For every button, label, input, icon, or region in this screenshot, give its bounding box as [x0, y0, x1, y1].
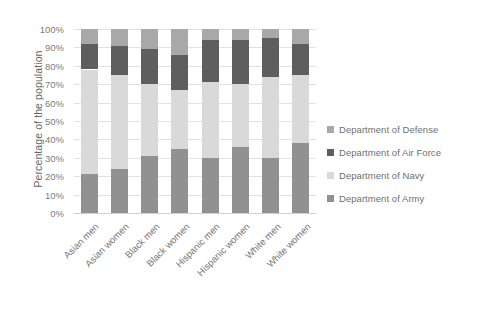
bar-segment[interactable]: [202, 29, 219, 40]
stacked-bar[interactable]: [262, 29, 279, 213]
bar-group[interactable]: [81, 29, 98, 213]
bar-segment[interactable]: [111, 29, 128, 46]
y-axis-tick-labels: 100%90%80%70%60%50%40%30%20%10%0%: [0, 29, 68, 213]
stacked-bar[interactable]: [81, 29, 98, 213]
legend-item[interactable]: Department of Navy: [327, 164, 483, 186]
bar-segment[interactable]: [141, 84, 158, 156]
legend-swatch-icon: [327, 172, 334, 179]
bar-segment[interactable]: [232, 84, 249, 147]
bar-group[interactable]: [111, 29, 128, 213]
bar-segment[interactable]: [141, 156, 158, 213]
bar-segment[interactable]: [111, 75, 128, 169]
bar-segment[interactable]: [202, 158, 219, 213]
stacked-bar[interactable]: [171, 29, 188, 213]
bar-group[interactable]: [202, 29, 219, 213]
bar-segment[interactable]: [171, 149, 188, 213]
bar-segment[interactable]: [232, 29, 249, 40]
legend-swatch-icon: [327, 149, 334, 156]
bar-group[interactable]: [171, 29, 188, 213]
stacked-bar[interactable]: [202, 29, 219, 213]
y-axis-tick-label: 0%: [0, 208, 64, 219]
stacked-bar[interactable]: [232, 29, 249, 213]
bar-segment[interactable]: [292, 75, 309, 143]
bar-segment[interactable]: [171, 55, 188, 90]
legend-swatch-icon: [327, 126, 334, 133]
bar-group[interactable]: [262, 29, 279, 213]
y-axis-tick-label: 50%: [0, 116, 64, 127]
bar-group[interactable]: [141, 29, 158, 213]
chart-legend: Department of DefenseDepartment of Air F…: [327, 118, 483, 210]
legend-item[interactable]: Department of Air Force: [327, 141, 483, 163]
bar-segment[interactable]: [141, 49, 158, 84]
y-axis-tick-label: 60%: [0, 97, 64, 108]
plot-area: [74, 29, 316, 213]
y-axis-tick-label: 30%: [0, 152, 64, 163]
legend-label: Department of Air Force: [339, 147, 441, 158]
bar-segment[interactable]: [81, 44, 98, 70]
stacked-bar-chart: Percentage of the population 100%90%80%7…: [0, 0, 485, 314]
y-axis-tick-label: 80%: [0, 60, 64, 71]
legend-label: Department of Navy: [339, 170, 424, 181]
bar-segment[interactable]: [262, 38, 279, 77]
bar-segment[interactable]: [292, 44, 309, 75]
y-axis-tick-label: 100%: [0, 24, 64, 35]
stacked-bar[interactable]: [292, 29, 309, 213]
bar-segment[interactable]: [232, 40, 249, 84]
legend-item[interactable]: Department of Defense: [327, 118, 483, 140]
bar-segment[interactable]: [111, 169, 128, 213]
bar-segment[interactable]: [232, 147, 249, 213]
bar-group[interactable]: [232, 29, 249, 213]
legend-item[interactable]: Department of Army: [327, 187, 483, 209]
y-axis-tick-label: 70%: [0, 79, 64, 90]
bar-group[interactable]: [292, 29, 309, 213]
bar-segment[interactable]: [81, 174, 98, 213]
bar-segment[interactable]: [262, 77, 279, 158]
stacked-bar[interactable]: [141, 29, 158, 213]
bar-segment[interactable]: [202, 40, 219, 82]
bar-segment[interactable]: [292, 143, 309, 213]
bar-segment[interactable]: [171, 90, 188, 149]
y-axis-tick-label: 40%: [0, 134, 64, 145]
legend-label: Department of Defense: [339, 124, 438, 135]
legend-swatch-icon: [327, 195, 334, 202]
y-axis-tick-label: 90%: [0, 42, 64, 53]
bar-segment[interactable]: [81, 29, 98, 44]
bar-segment[interactable]: [262, 158, 279, 213]
bar-segment[interactable]: [202, 82, 219, 157]
bar-segment[interactable]: [292, 29, 309, 44]
y-axis-tick-label: 20%: [0, 171, 64, 182]
bar-segment[interactable]: [111, 46, 128, 75]
bar-segment[interactable]: [262, 29, 279, 38]
bar-segment[interactable]: [81, 70, 98, 175]
x-axis-tick-labels: Asian menAsian womenBlack menBlack women…: [74, 213, 316, 308]
y-axis-tick-label: 10%: [0, 189, 64, 200]
stacked-bar[interactable]: [111, 29, 128, 213]
legend-label: Department of Army: [339, 193, 424, 204]
bar-segment[interactable]: [141, 29, 158, 49]
bar-segment[interactable]: [171, 29, 188, 55]
